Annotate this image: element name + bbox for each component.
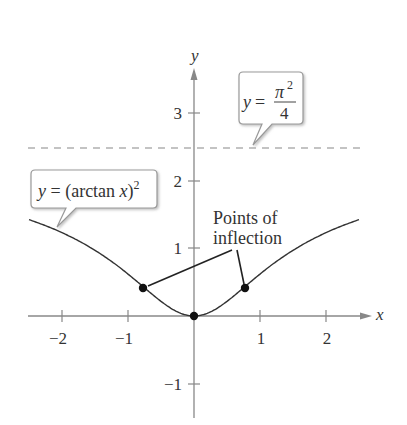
chart: −2 −1 1 2 3 2 1 −1 x y y = π 2 4 y = (ar…	[0, 0, 407, 425]
asym-exp: 2	[287, 78, 293, 92]
y-axis-label: y	[189, 46, 199, 65]
curve-label-exp: 2	[134, 178, 140, 192]
y-tick-label: −1	[164, 375, 182, 394]
asym-den: 4	[280, 104, 289, 123]
asym-eq: =	[255, 92, 265, 112]
x-arrow-icon	[360, 313, 372, 320]
inflection-point	[241, 284, 249, 292]
poi-label-line2: inflection	[213, 228, 282, 248]
x-tick-label: −1	[115, 329, 133, 348]
x-tick-label: 1	[257, 329, 266, 348]
asym-y: y	[241, 92, 251, 112]
minimum-point	[190, 312, 198, 320]
x-tick-label: 2	[323, 329, 332, 348]
y-axis	[188, 68, 200, 418]
leader-line	[237, 250, 244, 284]
y-tick-label: 1	[174, 239, 183, 258]
x-axis-label: x	[375, 305, 384, 324]
curve-label: y = (arctan x)2	[36, 178, 140, 202]
y-tick-label: 2	[174, 172, 183, 191]
y-tick-label: 3	[174, 104, 183, 123]
inflection-point	[139, 284, 147, 292]
leader-line	[148, 250, 232, 286]
curve-label-x: x	[119, 181, 128, 201]
x-tick-label: −2	[49, 329, 67, 348]
asym-pi: π	[275, 82, 285, 102]
curve-label-text: = (arctan	[46, 181, 120, 202]
y-arrow-icon	[191, 68, 198, 80]
poi-label-line1: Points of	[213, 208, 278, 228]
